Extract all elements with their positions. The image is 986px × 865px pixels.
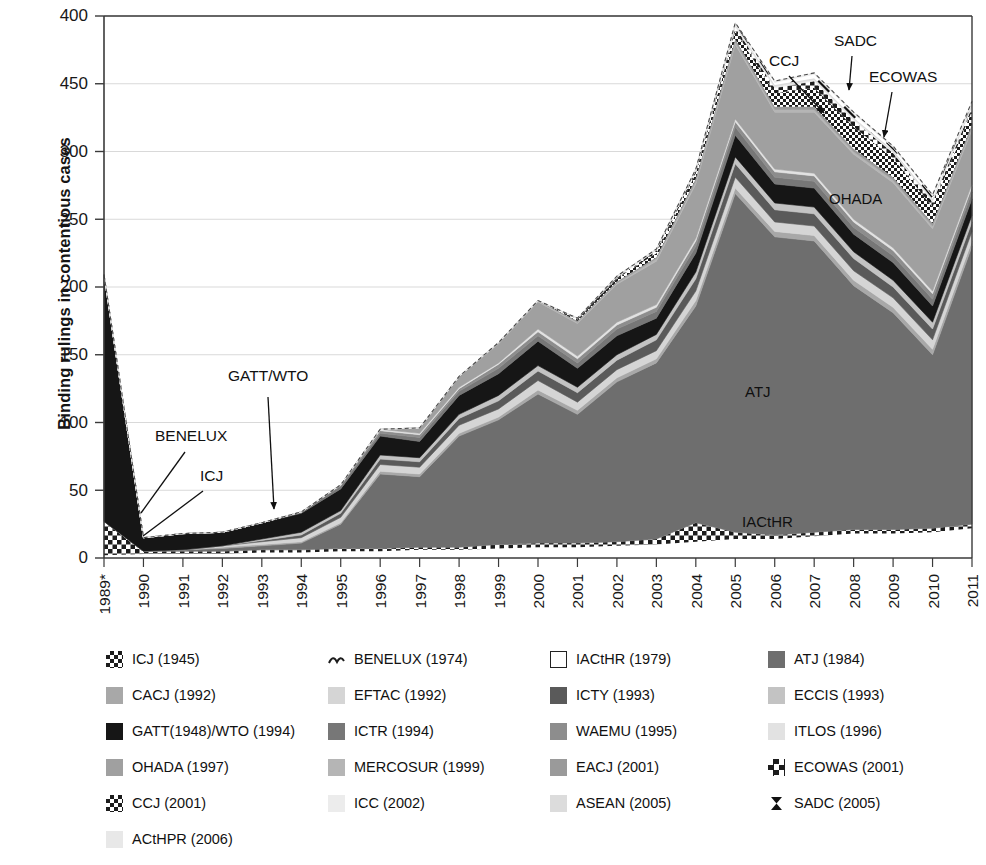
y-tick-label: 400 [60,6,88,25]
legend-item[interactable]: SADC (2005) [768,795,978,812]
legend-swatch-icon [550,651,567,668]
legend-swatch-icon [768,795,785,812]
legend-swatch-icon [328,687,345,704]
x-tick-label: 1994 [293,574,310,609]
chart-area: 4004503002502001501005001989*19901991199… [0,0,986,632]
x-tick-label: 1991 [175,574,192,608]
legend-label: IACtHR (1979) [576,652,671,667]
legend-label: CACJ (1992) [132,688,216,703]
annotation-sadc: SADC [834,32,877,49]
legend-label: BENELUX (1974) [354,652,468,667]
legend-item[interactable]: BENELUX (1974) [328,651,550,668]
legend-item[interactable]: ECOWAS (2001) [768,759,978,776]
legend-item[interactable]: EACJ (2001) [550,759,768,776]
chart-page: Binding rulings in contentious cases 400… [0,0,986,865]
legend-label: SADC (2005) [794,796,880,811]
legend-swatch-icon [106,723,123,740]
chart-label-atj: ATJ [745,383,771,400]
x-tick-label: 1998 [451,574,468,608]
x-tick-label: 2006 [767,574,784,608]
y-tick-label: 300 [60,142,88,161]
legend-item[interactable]: ATJ (1984) [768,651,978,668]
stacked-area-chart: 4004503002502001501005001989*19901991199… [0,0,986,632]
x-tick-label: 2004 [688,574,705,609]
legend-swatch-icon [768,759,785,776]
annotation-benelux: BENELUX [155,427,228,444]
legend-item[interactable]: EFTAC (1992) [328,687,550,704]
chart-label-iacthr: IACtHR [742,513,793,530]
x-tick-label: 2008 [846,574,863,608]
annotation-icj: ICJ [200,467,223,484]
annotation-ccj: CCJ [769,52,799,69]
legend-swatch-icon [106,651,123,668]
x-tick-label: 1996 [372,574,389,608]
legend-swatch-icon [106,759,123,776]
x-tick-label: 1995 [333,574,350,608]
x-tick-label: 1997 [412,574,429,608]
x-tick-label: 2007 [806,574,823,608]
legend-swatch-icon [550,723,567,740]
legend-label: OHADA (1997) [132,760,229,775]
y-tick-label: 150 [60,345,88,364]
legend-item[interactable]: ITLOS (1996) [768,723,978,740]
legend-label: GATT(1948)/WTO (1994) [132,724,295,739]
legend-label: ITLOS (1996) [794,724,882,739]
legend-label: ECCIS (1993) [794,688,884,703]
legend-item[interactable]: ASEAN (2005) [550,795,768,812]
legend-swatch-icon [106,831,123,848]
legend-label: ECOWAS (2001) [794,760,904,775]
y-tick-label: 0 [79,548,88,567]
legend-item[interactable]: ACtHPR (2006) [106,831,328,848]
legend-item[interactable]: ICTR (1994) [328,723,550,740]
legend-swatch-icon [106,687,123,704]
legend-swatch-icon [328,759,345,776]
legend-item[interactable]: GATT(1948)/WTO (1994) [106,723,328,740]
legend-item[interactable]: IACtHR (1979) [550,651,768,668]
legend-item[interactable]: OHADA (1997) [106,759,328,776]
x-tick-label: 2009 [885,574,902,608]
legend-item[interactable]: ECCIS (1993) [768,687,978,704]
legend-label: ICJ (1945) [132,652,200,667]
x-tick-label: 2003 [648,574,665,608]
legend-label: ICTR (1994) [354,724,434,739]
x-tick-label: 2011 [964,574,981,607]
legend-label: ICTY (1993) [576,688,655,703]
chart-label-ohada: OHADA [829,190,882,207]
legend-label: ASEAN (2005) [576,796,671,811]
x-tick-label: 2001 [569,574,586,608]
legend-label: CCJ (2001) [132,796,206,811]
legend-label: ACtHPR (2006) [132,832,233,847]
legend-label: EACJ (2001) [576,760,659,775]
legend-item[interactable]: CCJ (2001) [106,795,328,812]
y-tick-label: 100 [60,413,88,432]
legend-item[interactable]: ICJ (1945) [106,651,328,668]
legend-swatch-icon [106,795,123,812]
annotation-ecowas: ECOWAS [869,68,937,85]
annotation-gatt-wto: GATT/WTO [228,367,308,384]
legend-label: WAEMU (1995) [576,724,677,739]
legend-item[interactable]: ICC (2002) [328,795,550,812]
legend-swatch-icon [328,795,345,812]
legend-swatch-icon [550,687,567,704]
legend-swatch-icon [550,759,567,776]
x-tick-label: 2000 [530,574,547,609]
legend-swatch-icon [768,723,785,740]
x-tick-label: 2010 [925,574,942,609]
legend-item[interactable]: MERCOSUR (1999) [328,759,550,776]
legend-item[interactable]: ICTY (1993) [550,687,768,704]
legend-swatch-icon [328,651,345,668]
legend-label: EFTAC (1992) [354,688,446,703]
y-tick-label: 450 [60,74,88,93]
legend-label: MERCOSUR (1999) [354,760,485,775]
legend-label: ICC (2002) [354,796,425,811]
y-tick-label: 250 [60,210,88,229]
chart-legend: ICJ (1945)BENELUX (1974)IACtHR (1979)ATJ… [106,641,978,857]
legend-item[interactable]: CACJ (1992) [106,687,328,704]
x-tick-label: 1993 [254,574,271,608]
legend-item[interactable]: WAEMU (1995) [550,723,768,740]
legend-swatch-icon [328,723,345,740]
y-tick-label: 50 [69,481,88,500]
x-tick-label: 1990 [135,574,152,609]
legend-swatch-icon [768,687,785,704]
x-tick-label: 1992 [214,574,231,608]
